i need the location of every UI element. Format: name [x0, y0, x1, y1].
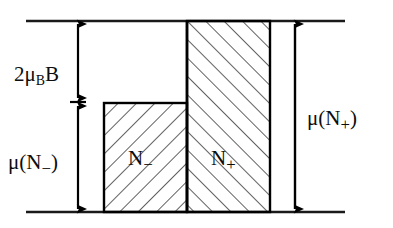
bar-plus-subscript: + — [226, 155, 235, 174]
bar-minus-subscript: − — [143, 155, 152, 174]
mu-minus-n-symbol: N — [26, 150, 41, 174]
mu-n-plus-label: μ(N+) — [307, 108, 357, 134]
bar-n-plus-label: N+ — [211, 148, 236, 174]
zeeman-prefix: 2 — [14, 62, 25, 86]
mu-plus-n-symbol: N — [325, 106, 340, 130]
band-bars — [104, 21, 270, 212]
mu-minus-mu-symbol: μ — [8, 150, 19, 174]
bar-minus-n-symbol: N — [128, 146, 143, 170]
energy-band-diagram: 2μBB μ(N−) μ(N+) N− N+ — [0, 0, 393, 228]
zeeman-mu-symbol: μ — [25, 62, 36, 86]
mu-minus-subscript: − — [41, 159, 50, 178]
left-measure-arrows — [70, 24, 86, 209]
zeeman-splitting-label: 2μBB — [14, 64, 59, 88]
bar-n-plus — [187, 21, 270, 212]
zeeman-subscript: B — [36, 73, 45, 88]
zeeman-field-symbol: B — [45, 62, 59, 86]
mu-n-minus-label: μ(N−) — [8, 152, 58, 178]
mu-plus-close-paren: ) — [350, 106, 357, 130]
mu-minus-close-paren: ) — [51, 150, 58, 174]
mu-plus-subscript: + — [340, 115, 349, 134]
bar-plus-n-symbol: N — [211, 146, 226, 170]
mu-plus-mu-symbol: μ — [307, 106, 318, 130]
bar-n-minus-label: N− — [128, 148, 153, 174]
